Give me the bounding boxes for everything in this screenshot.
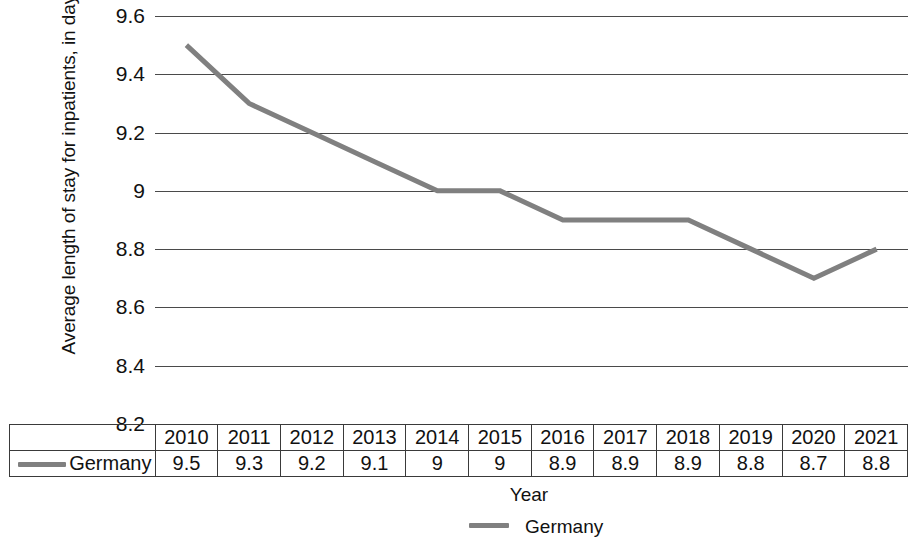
plot-area xyxy=(155,0,908,425)
table-year-cell: 2010 xyxy=(155,425,218,451)
table-year-cell: 2011 xyxy=(218,425,281,451)
table-value-cell: 9.2 xyxy=(280,451,343,477)
table-value-cell: 8.9 xyxy=(594,451,657,477)
data-table: 2010201120122013201420152016201720182019… xyxy=(9,424,908,477)
table-corner-cell xyxy=(10,425,156,451)
table-year-cell: 2018 xyxy=(657,425,720,451)
table-value-cell: 8.8 xyxy=(719,451,782,477)
table-row-years: 2010201120122013201420152016201720182019… xyxy=(10,425,908,451)
table-value-cell: 8.8 xyxy=(845,451,908,477)
x-axis-title-text: Year xyxy=(510,484,548,506)
y-axis-tick-labels: 9.69.49.298.88.68.48.2 xyxy=(0,0,150,425)
series-line-germany xyxy=(155,0,908,425)
legend-entry-germany: Germany xyxy=(469,515,603,538)
y-axis-tick-label: 9.4 xyxy=(85,63,145,84)
x-axis-title: Year xyxy=(0,484,908,506)
table-row-values: Germany 9.59.39.29.1998.98.98.98.88.78.8 xyxy=(10,451,908,477)
table-value-cell: 8.9 xyxy=(657,451,720,477)
table-value-cell: 9.3 xyxy=(218,451,281,477)
table-value-cell: 9 xyxy=(469,451,532,477)
table-year-cell: 2016 xyxy=(531,425,594,451)
series-line-swatch-icon xyxy=(18,462,66,467)
table-year-cell: 2013 xyxy=(343,425,406,451)
table-value-cell: 8.9 xyxy=(531,451,594,477)
y-axis-tick-label: 9.2 xyxy=(85,122,145,143)
table-series-legend-cell: Germany xyxy=(10,451,156,477)
table-value-cell: 8.7 xyxy=(782,451,845,477)
table-value-cell: 9.1 xyxy=(343,451,406,477)
legend-entry-label: Germany xyxy=(525,516,603,537)
y-axis-tick-label: 8.6 xyxy=(85,296,145,317)
table-value-cell: 9.5 xyxy=(155,451,218,477)
legend-line-swatch-icon xyxy=(469,523,509,528)
table-year-cell: 2015 xyxy=(469,425,532,451)
y-axis-tick-label: 8.8 xyxy=(85,238,145,259)
y-axis-tick-label: 8.4 xyxy=(85,355,145,376)
table-year-cell: 2012 xyxy=(280,425,343,451)
table-year-cell: 2020 xyxy=(782,425,845,451)
table-year-cell: 2021 xyxy=(845,425,908,451)
y-axis-tick-label: 9.6 xyxy=(85,5,145,26)
table-year-cell: 2014 xyxy=(406,425,469,451)
table-year-cell: 2017 xyxy=(594,425,657,451)
chart-legend: Germany xyxy=(0,515,908,538)
y-axis-tick-label: 9 xyxy=(85,180,145,201)
table-value-cell: 9 xyxy=(406,451,469,477)
table-year-cell: 2019 xyxy=(719,425,782,451)
